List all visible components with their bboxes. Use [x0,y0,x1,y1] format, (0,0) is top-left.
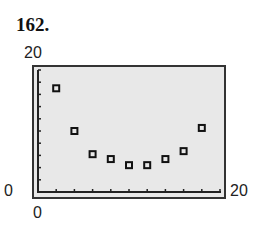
data-point [199,125,205,131]
data-point [90,151,96,157]
data-point [126,162,132,168]
data-point [71,128,77,134]
data-point [162,156,168,162]
data-point [53,85,59,91]
data-point [108,156,114,162]
scatter-plot [0,0,264,235]
data-point [181,148,187,154]
data-point [144,162,150,168]
plot-frame [33,66,225,198]
